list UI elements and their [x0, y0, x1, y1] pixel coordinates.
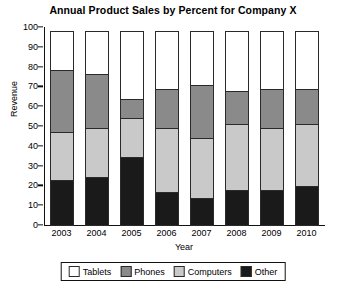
bar-segment-computers: [50, 132, 74, 182]
y-tick-mark: [38, 26, 43, 27]
bar-column: [50, 27, 74, 225]
y-tick-label: 10: [28, 200, 38, 210]
bar-segment-other: [260, 190, 284, 226]
bar-column: [155, 27, 179, 225]
bar-segment-tablets: [190, 31, 214, 86]
y-axis-label: Revenue: [9, 59, 19, 139]
x-axis-tick-labels: 20032004200520062007200820092010: [44, 228, 324, 242]
x-tick-label: 2006: [155, 228, 179, 238]
x-tick-label: 2007: [190, 228, 214, 238]
legend-item-computers[interactable]: Computers: [174, 266, 232, 277]
x-tick-label: 2003: [50, 228, 74, 238]
bar-segment-other: [190, 198, 214, 226]
bar-segment-other: [295, 186, 319, 226]
y-tick-mark: [38, 86, 43, 87]
y-tick-mark: [38, 66, 43, 67]
bar-segment-phones: [120, 99, 144, 119]
legend-swatch-computers: [174, 266, 185, 277]
bar-segment-other: [120, 157, 144, 226]
bar-segment-tablets: [155, 31, 179, 90]
y-tick-mark: [38, 125, 43, 126]
y-tick-label: 100: [23, 22, 38, 32]
y-tick-mark: [38, 106, 43, 107]
bar-segment-tablets: [260, 31, 284, 90]
chart-title: Annual Product Sales by Percent for Comp…: [0, 4, 346, 16]
legend-item-tablets[interactable]: Tablets: [69, 266, 112, 277]
y-tick-mark: [38, 46, 43, 47]
bar-segment-other: [155, 192, 179, 226]
bar-segment-tablets: [85, 31, 109, 75]
x-tick-label: 2010: [295, 228, 319, 238]
bar-segment-other: [225, 190, 249, 226]
y-tick-label: 90: [28, 42, 38, 52]
y-tick-label: 80: [28, 62, 38, 72]
bar-column: [295, 27, 319, 225]
y-tick-label: 30: [28, 161, 38, 171]
legend-swatch-tablets: [69, 266, 80, 277]
bar-segment-phones: [85, 74, 109, 129]
bar-segment-other: [85, 177, 109, 227]
bar-segment-computers: [155, 128, 179, 193]
bar-segment-computers: [295, 124, 319, 187]
y-tick-mark: [38, 145, 43, 146]
legend-item-other[interactable]: Other: [241, 266, 278, 277]
bar-segment-other: [50, 180, 74, 226]
legend-label: Computers: [188, 267, 232, 277]
legend-label: Tablets: [83, 267, 112, 277]
stacked-bar-chart: Annual Product Sales by Percent for Comp…: [0, 0, 346, 292]
bar-segment-phones: [190, 85, 214, 138]
bar-segment-computers: [190, 138, 214, 199]
y-tick-mark: [38, 165, 43, 166]
bar-segment-tablets: [50, 31, 74, 71]
legend-swatch-other: [241, 266, 252, 277]
legend-label: Phones: [134, 267, 165, 277]
bar-column: [120, 27, 144, 225]
y-tick-mark: [38, 185, 43, 186]
bar-segment-phones: [225, 91, 249, 125]
x-tick-label: 2004: [85, 228, 109, 238]
bar-segment-phones: [260, 89, 284, 129]
bar-segment-computers: [260, 128, 284, 191]
bar-segment-phones: [50, 70, 74, 133]
x-axis-label: Year: [44, 242, 324, 252]
bar-segment-phones: [295, 89, 319, 125]
bar-segment-computers: [85, 128, 109, 178]
bar-column: [260, 27, 284, 225]
y-tick-label: 70: [28, 81, 38, 91]
y-tick-mark: [38, 224, 43, 225]
y-tick-label: 50: [28, 121, 38, 131]
y-tick-label: 60: [28, 101, 38, 111]
bar-segment-tablets: [225, 31, 249, 92]
bar-series-container: [44, 27, 324, 225]
chart-legend: TabletsPhonesComputersOther: [61, 262, 286, 281]
bar-column: [85, 27, 109, 225]
legend-label: Other: [255, 267, 278, 277]
x-tick-label: 2008: [225, 228, 249, 238]
bar-segment-tablets: [295, 31, 319, 90]
y-tick-label: 20: [28, 180, 38, 190]
bar-segment-computers: [225, 124, 249, 191]
x-tick-label: 2009: [260, 228, 284, 238]
legend-swatch-phones: [120, 266, 131, 277]
bar-segment-computers: [120, 118, 144, 158]
legend-item-phones[interactable]: Phones: [120, 266, 165, 277]
y-tick-label: 40: [28, 141, 38, 151]
y-axis-ticks: 0102030405060708090100: [0, 27, 44, 225]
bar-column: [225, 27, 249, 225]
y-tick-mark: [38, 205, 43, 206]
bar-column: [190, 27, 214, 225]
x-tick-label: 2005: [120, 228, 144, 238]
bar-segment-tablets: [120, 31, 144, 100]
bar-segment-phones: [155, 89, 179, 129]
